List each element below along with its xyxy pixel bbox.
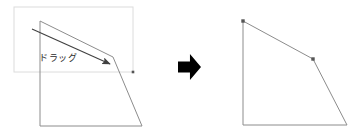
diagram-vector-layer: [0, 0, 360, 137]
diagram-canvas: ドラッグ: [0, 0, 360, 137]
vertex-handle-bend[interactable]: [311, 57, 314, 60]
before-shape-outline[interactable]: [40, 21, 142, 126]
after-shape-outline[interactable]: [243, 21, 347, 125]
selection-handle[interactable]: [132, 71, 135, 74]
right-arrow-icon: [178, 54, 201, 80]
drag-label: ドラッグ: [39, 53, 77, 64]
vertex-handle-top-left[interactable]: [241, 19, 244, 22]
